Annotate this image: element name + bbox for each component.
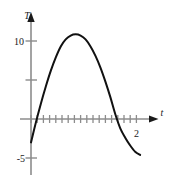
chart-background: [0, 0, 169, 180]
x-axis-label: t: [161, 107, 164, 118]
chart-figure: T t 10 -5 2: [0, 0, 169, 180]
parabola-chart-svg: T t 10 -5 2: [0, 0, 169, 180]
x-tick-label-2: 2: [134, 128, 139, 139]
y-tick-label-minus-5: -5: [17, 153, 25, 164]
y-tick-label-10: 10: [14, 36, 24, 47]
